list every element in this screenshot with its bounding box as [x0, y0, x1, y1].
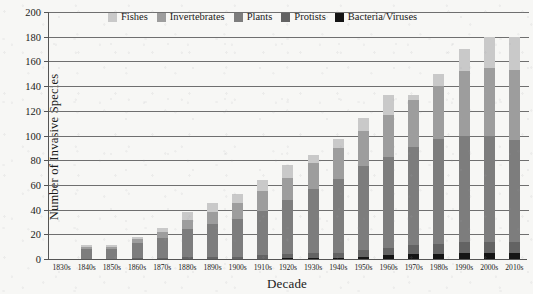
bar-segment: [459, 242, 470, 253]
bar-stack: [484, 37, 495, 259]
bar-segment: [207, 257, 218, 259]
y-tick-label-80: 80: [31, 155, 42, 166]
x-tick-label-1880s: 1880s: [178, 263, 196, 272]
legend-label: Plants: [247, 12, 273, 23]
bar-slot: 1890s: [200, 12, 225, 259]
bar-segment: [433, 86, 444, 139]
bar-segment: [383, 95, 394, 115]
bar-segment: [358, 257, 369, 259]
x-tick-label-1900s: 1900s: [229, 263, 247, 272]
bar-segment: [484, 136, 495, 242]
bar-stack: [459, 49, 470, 259]
legend-swatch-icon: [234, 13, 243, 22]
bar-segment: [257, 191, 268, 211]
bar-segment: [358, 131, 369, 167]
x-tick-label-1940s: 1940s: [329, 263, 347, 272]
bar-stack: [132, 237, 143, 259]
bar-segment: [433, 74, 444, 86]
bar-stack: [157, 228, 168, 259]
bar-segment: [509, 70, 520, 140]
legend-label: Protists: [294, 12, 326, 23]
bar-stack: [308, 155, 319, 259]
plot-area: 020406080100120140160180200 1830s1840s18…: [48, 12, 527, 260]
bar-stack: [257, 180, 268, 259]
bar-stack: [232, 194, 243, 259]
bar-segment: [333, 139, 344, 148]
bar-segment: [257, 255, 268, 259]
bar-segment: [358, 166, 369, 250]
x-tick-label-1850s: 1850s: [103, 263, 121, 272]
bar-slot: 1960s: [376, 12, 401, 259]
bar-slot: 1950s: [351, 12, 376, 259]
bar-segment: [282, 200, 293, 254]
bar-slot: 1980s: [426, 12, 451, 259]
bar-stack: [408, 95, 419, 259]
y-tick-label-100: 100: [25, 130, 41, 141]
legend-label: Fishes: [121, 12, 148, 23]
x-tick-label-1860s: 1860s: [128, 263, 146, 272]
bar-segment: [157, 238, 168, 258]
x-tick-label-2010s: 2010s: [505, 263, 523, 272]
bar-stack: [282, 165, 293, 259]
legend-swatch-icon: [281, 13, 290, 22]
y-tick-label-160: 160: [25, 56, 41, 67]
chart-legend: FishesInvertebratesPlantsProtistsBacteri…: [108, 12, 417, 23]
x-tick-label-1890s: 1890s: [203, 263, 221, 272]
bar-segment: [232, 203, 243, 219]
x-tick-label-1910s: 1910s: [254, 263, 272, 272]
legend-item-bacteria-viruses: Bacteria/Viruses: [335, 12, 417, 23]
bar-stack: [433, 74, 444, 259]
bar-segment: [383, 255, 394, 259]
bar-slot: 1990s: [452, 12, 477, 259]
legend-item-fishes: Fishes: [108, 12, 148, 23]
bar-segment: [232, 257, 243, 259]
x-axis-title: Decade: [48, 276, 526, 292]
bar-segment: [383, 248, 394, 255]
bar-segment: [333, 148, 344, 179]
bar-segment: [308, 155, 319, 162]
bar-stack: [509, 37, 520, 259]
bar-segment: [383, 157, 394, 248]
invasive-species-stacked-bar-chart: Number of Invasive Species FishesInverte…: [0, 0, 533, 294]
x-tick-label-1830s: 1830s: [53, 263, 71, 272]
bar-slot: 1880s: [175, 12, 200, 259]
bar-segment: [232, 219, 243, 256]
bar-slot: 1860s: [124, 12, 149, 259]
bar-segment: [207, 224, 218, 256]
bar-segment: [509, 37, 520, 70]
y-tick-label-180: 180: [25, 31, 41, 42]
x-tick-label-1970s: 1970s: [405, 263, 423, 272]
bar-segment: [132, 243, 143, 258]
bar-segment: [459, 136, 470, 242]
bar-stack: [383, 95, 394, 259]
x-tick-label-1920s: 1920s: [279, 263, 297, 272]
bar-segment: [232, 194, 243, 204]
x-tick-label-1930s: 1930s: [304, 263, 322, 272]
bar-segment: [308, 189, 319, 253]
bar-segment: [408, 254, 419, 259]
bar-segment: [207, 212, 218, 224]
legend-item-protists: Protists: [281, 12, 326, 23]
bar-slot: 1850s: [99, 12, 124, 259]
bar-segment: [106, 249, 117, 259]
y-tick-label-200: 200: [25, 7, 41, 18]
bar-segment: [257, 180, 268, 191]
bar-segment: [433, 254, 444, 259]
legend-item-plants: Plants: [234, 12, 273, 23]
legend-swatch-icon: [335, 13, 344, 22]
bar-segment: [132, 258, 143, 259]
bar-slot: 1840s: [74, 12, 99, 259]
bar-segment: [459, 71, 470, 135]
bar-segment: [484, 37, 495, 68]
bar-stack: [81, 245, 92, 259]
bar-slot: 1970s: [401, 12, 426, 259]
bar-segment: [207, 203, 218, 212]
bar-segment: [509, 140, 520, 241]
bar-segment: [282, 178, 293, 200]
bar-segment: [182, 212, 193, 219]
bar-segment: [182, 220, 193, 230]
bar-segment: [182, 229, 193, 256]
bar-slot: 1870s: [150, 12, 175, 259]
x-tick-label-1840s: 1840s: [78, 263, 96, 272]
bar-slot: 1830s: [49, 12, 74, 259]
